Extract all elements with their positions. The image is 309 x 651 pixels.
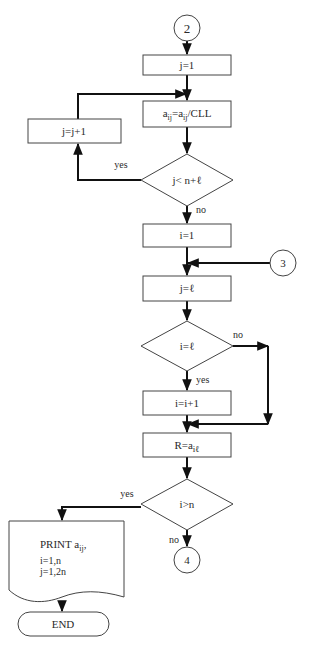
connector-3: 3	[270, 250, 296, 276]
output-print-line2: j=1,2n	[39, 566, 66, 577]
connector-2: 2	[174, 15, 200, 41]
decision-check-i-label: i=ℓ	[180, 340, 195, 352]
flowchart-canvas: 2 j=1 aij=aij/CLL j=j+1 j< n+ℓ yes no i=…	[0, 0, 309, 651]
process-init-j-label: j=1	[179, 59, 195, 71]
process-normalize: aij=aij/CLL	[143, 101, 231, 127]
connector-2-label: 2	[184, 21, 191, 36]
process-set-j-label: j=ℓ	[179, 282, 195, 294]
label-loop-j-no: no	[196, 204, 206, 215]
process-increment-i: i=i+1	[143, 391, 231, 415]
decision-loop-j-label: j< n+ℓ	[172, 174, 202, 186]
output-print-line1: i=1,n	[40, 555, 61, 566]
process-increment-i-label: i=i+1	[175, 397, 199, 409]
output-print: PRINT aij, i=1,n j=1,2n	[9, 521, 124, 602]
terminal-end-label: END	[52, 618, 75, 630]
decision-end-check: i>n	[141, 479, 233, 530]
process-init-i-label: i=1	[180, 229, 195, 241]
connector-4: 4	[174, 547, 200, 573]
label-check-i-no: no	[233, 329, 243, 340]
connector-3-label: 3	[280, 257, 286, 269]
process-init-j: j=1	[143, 55, 231, 75]
terminal-end: END	[18, 612, 109, 636]
label-loop-j-yes: yes	[114, 159, 127, 170]
label-end-yes: yes	[120, 488, 133, 499]
label-check-i-yes: yes	[196, 374, 209, 385]
decision-end-check-label: i>n	[180, 498, 195, 510]
process-increment-j-label: j=j+1	[61, 125, 86, 137]
decision-check-i: i=ℓ	[141, 321, 233, 371]
process-increment-j: j=j+1	[28, 119, 121, 143]
decision-loop-j: j< n+ℓ	[141, 154, 233, 206]
label-end-no: no	[169, 534, 179, 545]
connector-4-label: 4	[184, 554, 190, 566]
process-set-j: j=ℓ	[143, 276, 231, 301]
process-init-i: i=1	[143, 224, 231, 247]
process-assign-r: R=aiℓ	[143, 433, 231, 457]
